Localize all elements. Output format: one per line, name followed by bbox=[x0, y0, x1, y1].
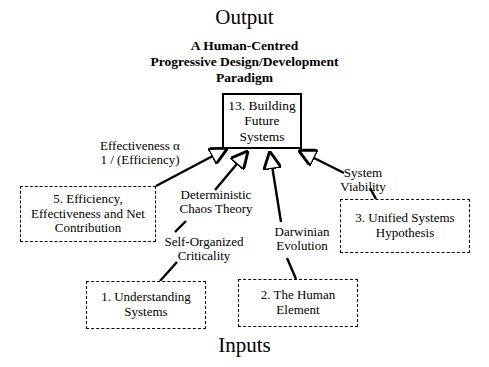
edge-label-darwinian-evolution: Darwinian Evolution bbox=[262, 225, 342, 254]
node-human-element[interactable]: 2. The Human Element bbox=[238, 279, 358, 327]
node-building-line-2: Future bbox=[228, 113, 296, 128]
edge-label-deterministic-chaos-theory: Deterministic Chaos Theory bbox=[164, 188, 268, 217]
node-efficiency-effectiveness-net-contribution[interactable]: 5. Efficiency, Effectiveness and Net Con… bbox=[20, 186, 156, 242]
node-efficiency-line-3: Contribution bbox=[31, 221, 145, 236]
edge-label-criticality-line-1: Self-Organized bbox=[150, 235, 258, 249]
edge-understanding-to-criticality bbox=[160, 262, 177, 281]
edge-human-to-evolution bbox=[287, 258, 296, 279]
diagram-canvas: Output A Human-Centred Progressive Desig… bbox=[0, 0, 489, 367]
edge-chaos-to-building bbox=[215, 152, 247, 190]
edge-label-effectiveness-alpha-line-2: 1 / (Efficiency) bbox=[80, 153, 200, 167]
node-understanding-line-1: 1. Understanding bbox=[101, 290, 191, 305]
node-human-line-2: Element bbox=[261, 303, 336, 318]
node-efficiency-line-1: 5. Efficiency, bbox=[31, 192, 145, 207]
node-unified-line-2: Hypothesis bbox=[355, 226, 454, 241]
edge-label-viability-line-1: System bbox=[326, 166, 400, 180]
node-human-line-1: 2. The Human bbox=[261, 288, 336, 303]
node-unified-systems-hypothesis[interactable]: 3. Unified Systems Hypothesis bbox=[340, 199, 470, 253]
edge-label-criticality-line-2: Criticality bbox=[150, 249, 258, 263]
node-building-line-3: Systems bbox=[228, 129, 296, 144]
edge-label-chaos-line-1: Deterministic bbox=[164, 188, 268, 202]
edge-label-self-organized-criticality: Self-Organized Criticality bbox=[150, 235, 258, 264]
edge-criticality-to-chaos bbox=[175, 221, 186, 232]
edge-evolution-to-building bbox=[270, 153, 281, 222]
edge-label-evolution-line-2: Evolution bbox=[262, 239, 342, 253]
edge-label-system-viability: System Viability bbox=[326, 166, 400, 195]
node-unified-line-1: 3. Unified Systems bbox=[355, 211, 454, 226]
node-efficiency-line-2: Effectiveness and Net bbox=[31, 207, 145, 222]
node-building-future-systems[interactable]: 13. Building Future Systems bbox=[222, 93, 302, 149]
edge-label-chaos-line-2: Chaos Theory bbox=[164, 202, 268, 216]
node-understanding-systems[interactable]: 1. Understanding Systems bbox=[86, 281, 206, 329]
edge-label-viability-line-2: Viability bbox=[326, 180, 400, 194]
inputs-heading: Inputs bbox=[0, 334, 489, 357]
edge-label-effectiveness-alpha: Effectiveness α 1 / (Efficiency) bbox=[80, 139, 200, 168]
edge-label-evolution-line-1: Darwinian bbox=[262, 225, 342, 239]
node-building-line-1: 13. Building bbox=[228, 98, 296, 113]
node-understanding-line-2: Systems bbox=[101, 305, 191, 320]
edge-label-effectiveness-alpha-line-1: Effectiveness α bbox=[80, 139, 200, 153]
